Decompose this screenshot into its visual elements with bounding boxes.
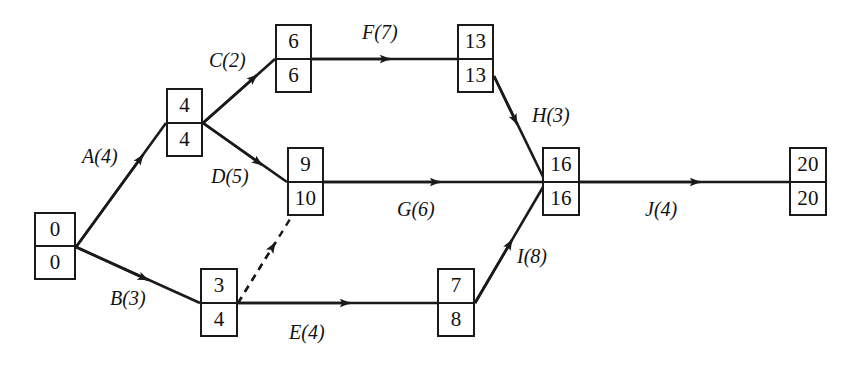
node-late-start-value: 4 bbox=[168, 124, 201, 156]
node-late-start-value: 13 bbox=[459, 60, 492, 92]
edge-I bbox=[475, 182, 546, 303]
edge-label-C: C(2) bbox=[209, 50, 246, 70]
node-n4: 9 10 bbox=[287, 147, 324, 216]
edge-label-F: F(7) bbox=[362, 22, 398, 42]
node-early-start-value: 16 bbox=[544, 149, 578, 183]
node-n3: 6 6 bbox=[275, 24, 312, 93]
node-early-start-value: 6 bbox=[277, 26, 310, 60]
edge-label-I: I(8) bbox=[517, 246, 547, 266]
edge-label-A: A(4) bbox=[82, 146, 118, 166]
edge-H bbox=[494, 76, 546, 183]
node-end: 20 20 bbox=[789, 147, 827, 216]
node-late-start-value: 10 bbox=[289, 183, 322, 215]
edge-label-E: E(4) bbox=[289, 322, 325, 342]
node-n8: 16 16 bbox=[542, 147, 580, 216]
node-late-start-value: 20 bbox=[791, 183, 825, 215]
edge-label-B: B(3) bbox=[110, 288, 146, 308]
edge-label-D: D(5) bbox=[211, 166, 249, 186]
node-early-start-value: 4 bbox=[168, 90, 201, 124]
edge-dummy bbox=[238, 216, 292, 303]
node-early-start-value: 13 bbox=[459, 26, 492, 60]
network-edges-canvas bbox=[0, 0, 863, 367]
node-late-start-value: 8 bbox=[439, 304, 473, 336]
node-start: 0 0 bbox=[34, 212, 76, 280]
node-early-start-value: 9 bbox=[289, 149, 322, 183]
node-n6: 13 13 bbox=[457, 24, 494, 93]
edge-A bbox=[76, 123, 166, 247]
node-early-start-value: 7 bbox=[439, 270, 473, 304]
node-late-start-value: 16 bbox=[544, 183, 578, 215]
node-n7: 7 8 bbox=[437, 268, 475, 337]
node-n2: 4 4 bbox=[166, 88, 203, 157]
node-early-start-value: 3 bbox=[202, 270, 236, 304]
edge-label-G: G(6) bbox=[397, 199, 435, 219]
network-diagram: 0 0 4 4 6 6 9 10 3 4 13 13 7 8 16 16 20 … bbox=[0, 0, 863, 367]
node-late-start-value: 4 bbox=[202, 304, 236, 336]
node-n5: 3 4 bbox=[200, 268, 238, 337]
edge-label-J: J(4) bbox=[645, 199, 677, 219]
node-late-start-value: 6 bbox=[277, 60, 310, 92]
node-early-start-value: 20 bbox=[791, 149, 825, 183]
node-late-start-value: 0 bbox=[36, 247, 74, 278]
node-early-start-value: 0 bbox=[36, 214, 74, 247]
edge-label-H: H(3) bbox=[532, 105, 570, 125]
